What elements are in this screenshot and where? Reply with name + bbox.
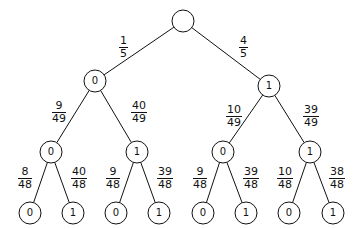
edge-probability: 45 [239, 35, 248, 60]
tree-node-label: 1 [62, 202, 84, 224]
edge-probability: 3848 [329, 166, 345, 191]
tree-edge [141, 162, 156, 202]
tree-edge [120, 162, 134, 202]
tree-node-label: 1 [299, 141, 321, 163]
tree-node-label: 0 [278, 202, 300, 224]
fraction-denominator: 49 [131, 113, 147, 125]
probability-tree: 1545949404910493949848404894839489483948… [0, 0, 359, 229]
tree-node-label: 1 [235, 202, 257, 224]
tree-node-label: 1 [126, 141, 148, 163]
edge-probability: 1049 [226, 104, 242, 129]
tree-node-label: 0 [19, 202, 41, 224]
fraction-denominator: 48 [71, 179, 87, 191]
tree-node-label: 0 [105, 202, 127, 224]
tree-node-label: 0 [192, 202, 214, 224]
tree-node-label: 0 [84, 70, 106, 92]
fraction-denominator: 49 [226, 117, 242, 129]
edge-probability: 15 [119, 35, 128, 60]
tree-edge [314, 162, 329, 202]
fraction-denominator: 48 [277, 179, 293, 191]
tree-edge [293, 162, 307, 202]
fraction-denominator: 48 [243, 179, 259, 191]
tree-node-label: 0 [212, 141, 234, 163]
edge-probability: 3948 [157, 166, 173, 191]
tree-edge [192, 28, 260, 80]
tree-edge [104, 27, 174, 75]
edge-probability: 948 [106, 166, 120, 191]
edge-probability: 4049 [131, 100, 147, 125]
tree-node-label: 1 [148, 202, 170, 224]
fraction-denominator: 48 [18, 179, 32, 191]
edge-probability: 949 [52, 100, 66, 125]
edge-probability: 3948 [243, 166, 259, 191]
fraction-denominator: 48 [193, 179, 207, 191]
fraction-denominator: 5 [119, 48, 128, 60]
fraction-denominator: 48 [106, 179, 120, 191]
tree-node-label: 0 [40, 141, 62, 163]
tree-edge [101, 90, 132, 142]
fraction-denominator: 49 [52, 113, 66, 125]
tree-edge [227, 162, 242, 202]
root-node [172, 10, 194, 32]
edge-probability: 848 [18, 166, 32, 191]
tree-edge [55, 162, 70, 202]
edge-probability: 1048 [277, 166, 293, 191]
fraction-denominator: 5 [239, 48, 248, 60]
fraction-denominator: 48 [157, 179, 173, 191]
tree-node-label: 1 [258, 75, 280, 97]
fraction-denominator: 49 [303, 117, 319, 129]
tree-edge [275, 95, 304, 142]
fraction-denominator: 48 [329, 179, 345, 191]
edge-probability: 3949 [303, 104, 319, 129]
tree-edge [206, 162, 219, 202]
tree-node-label: 1 [322, 202, 344, 224]
edge-probability: 4048 [71, 166, 87, 191]
edge-probability: 948 [193, 166, 207, 191]
tree-edge [34, 162, 48, 202]
